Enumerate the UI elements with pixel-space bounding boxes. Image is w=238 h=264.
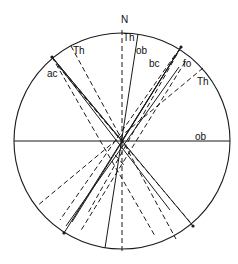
- label-th-upper-left: Th: [73, 45, 85, 56]
- pole-points: [50, 45, 194, 234]
- label-ac: ac: [47, 68, 58, 79]
- label-bc: bc: [149, 58, 160, 69]
- stereonet-canvas: NThobThacbcfoThob: [0, 0, 238, 264]
- line-cross-2: [72, 47, 181, 222]
- line-ac-great-circle-2: [52, 57, 122, 141]
- point-center: [120, 139, 123, 142]
- label-th-right: Th: [197, 76, 209, 87]
- dashed-bc-dashed-2: [60, 55, 175, 220]
- label-n: N: [121, 14, 128, 25]
- dashed-th-right: [37, 68, 203, 206]
- dashed-fo-dashed: [80, 62, 185, 232]
- point-pole-bc: [179, 45, 182, 48]
- label-ob-top: ob: [136, 45, 148, 56]
- stereonet-diagram: NThobThacbcfoThob: [0, 0, 238, 264]
- point-pole-ac: [50, 55, 53, 58]
- point-pole-lower-right: [191, 224, 194, 227]
- dashed-great-circles: [37, 30, 203, 254]
- label-fo: fo: [183, 58, 192, 69]
- label-ob-right: ob: [195, 131, 207, 142]
- label-th-top: Th: [123, 32, 135, 43]
- point-pole-lower-left: [62, 231, 65, 234]
